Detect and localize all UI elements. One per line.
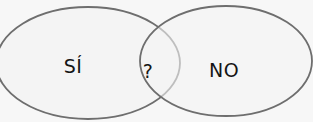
- intersection-label: ?: [143, 60, 154, 82]
- venn-diagram: [0, 0, 313, 122]
- set-right-label: NO: [209, 59, 239, 81]
- set-left-label: SÍ: [64, 55, 83, 77]
